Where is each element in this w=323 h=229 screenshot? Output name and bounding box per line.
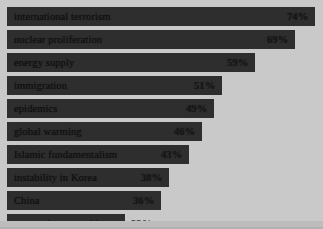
chart-bar-row: international terrorism 74% <box>0 7 323 26</box>
bar-value-label: 38% <box>141 172 162 184</box>
chart-bar-row: epidemics 49% <box>0 99 323 118</box>
bar-category-label: Islamic fundamentalism <box>14 149 117 161</box>
bar-category-label: immigration <box>14 80 67 92</box>
bar-category-label: instability in Korea <box>14 172 97 184</box>
bar-category-label: global warming <box>14 126 82 138</box>
bar-category-label: nuclear proliferation <box>14 34 102 46</box>
chart-bar-row: China 36% <box>0 191 323 210</box>
bar-value-label: 43% <box>161 149 182 161</box>
bar-value-label: 51% <box>194 80 215 92</box>
chart-bar-row: immigration 51% <box>0 76 323 95</box>
bar-category-label: China <box>14 195 40 207</box>
bar-value-label: 69% <box>267 34 288 46</box>
chart-bar-row: energy supply 59% <box>0 53 323 72</box>
bar-value-label: 36% <box>133 195 154 207</box>
bar-value-label: 49% <box>186 103 207 115</box>
bar-value-label: 59% <box>227 57 248 69</box>
chart-bar-row: nuclear proliferation 69% <box>0 30 323 49</box>
bar-category-label: energy supply <box>14 57 74 69</box>
bar-value-label: 46% <box>174 126 195 138</box>
bar-category-label: epidemics <box>14 103 57 115</box>
bar-value-label: 74% <box>287 11 308 23</box>
chart-bar-row: global warming 46% <box>0 122 323 141</box>
chart-bar-row: instability in Korea 38% <box>0 168 323 187</box>
bar-category-label: international terrorism <box>14 11 110 23</box>
bottom-rule <box>0 227 323 229</box>
plot-area: international terrorism 74% nuclear prol… <box>0 7 323 215</box>
chart-bar-row: Islamic fundamentalism 43% <box>0 145 323 164</box>
horizontal-bar-chart: international terrorism 74% nuclear prol… <box>0 0 323 229</box>
